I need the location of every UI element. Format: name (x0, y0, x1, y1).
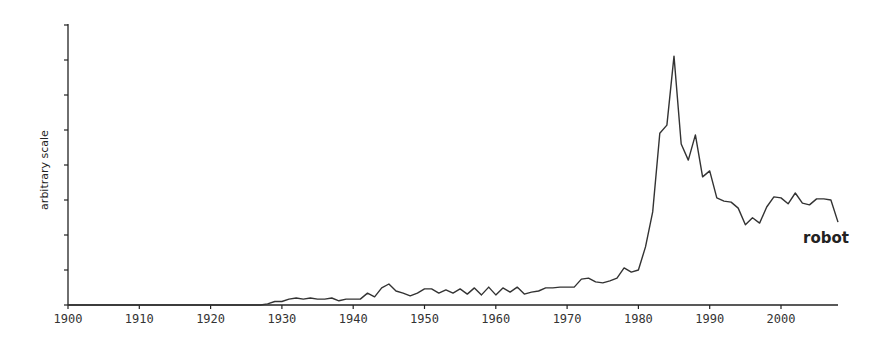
x-tick-label: 1990 (695, 312, 724, 326)
line-chart: 1900191019201930194019501960197019801990… (0, 0, 890, 341)
x-tick-label: 2000 (767, 312, 796, 326)
axes (68, 24, 838, 305)
x-tick-label: 1920 (196, 312, 225, 326)
x-tick-label: 1970 (553, 312, 582, 326)
x-axis-ticks: 1900191019201930194019501960197019801990… (54, 305, 796, 326)
x-tick-label: 1930 (267, 312, 296, 326)
y-axis-label-container: arbitrary scale (4, 120, 84, 220)
x-tick-label: 1940 (339, 312, 368, 326)
x-tick-label: 1960 (481, 312, 510, 326)
x-tick-label: 1910 (125, 312, 154, 326)
x-tick-label: 1900 (54, 312, 83, 326)
y-axis-label: arbitrary scale (38, 130, 51, 210)
x-tick-label: 1980 (624, 312, 653, 326)
series-line-robot (68, 56, 838, 305)
series-label-robot: robot (803, 229, 849, 247)
x-tick-label: 1950 (410, 312, 439, 326)
